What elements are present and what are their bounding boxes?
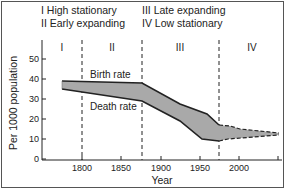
xtick-1950: 1950	[190, 163, 210, 173]
y-axis-label: Per 1000 population	[7, 56, 19, 150]
stage-label-4: IV	[247, 42, 257, 53]
ytick-40: 40	[29, 74, 39, 84]
ytick-0: 0	[34, 154, 39, 164]
x-axis-label: Year	[151, 174, 173, 186]
ytick-10: 10	[29, 134, 39, 144]
stage-label-1: I	[61, 42, 64, 53]
ytick-50: 50	[29, 54, 39, 64]
death-rate-label: Death rate	[90, 101, 137, 112]
xtick-1900: 1900	[151, 163, 171, 173]
ytick-20: 20	[29, 114, 39, 124]
chart-plot: 0 10 20 30 40 50 1800 1850 1900 1950 200…	[0, 0, 286, 192]
stage-label-3: III	[176, 42, 184, 53]
ytick-30: 30	[29, 94, 39, 104]
xtick-1800: 1800	[72, 163, 92, 173]
stage-label-2: II	[109, 42, 115, 53]
xtick-1850: 1850	[111, 163, 131, 173]
xtick-2000: 2000	[229, 163, 249, 173]
birth-rate-label: Birth rate	[90, 69, 131, 80]
